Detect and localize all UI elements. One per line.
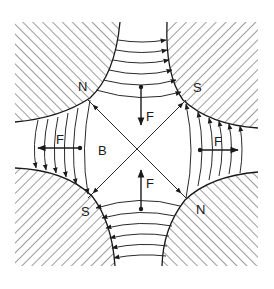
pole-top-right xyxy=(167,22,258,128)
force-bottom xyxy=(139,170,143,211)
force-label-top: F xyxy=(146,109,154,124)
pole-label-top-right: S xyxy=(193,80,202,95)
pole-label-bottom-left: S xyxy=(81,204,90,219)
force-label-left: F xyxy=(56,132,64,147)
force-label-bottom: F xyxy=(146,176,154,191)
pole-bottom-left xyxy=(15,168,115,266)
quadrupole-diagram: N S S N B F F F F xyxy=(0,0,274,289)
pole-label-bottom-right: N xyxy=(196,202,205,217)
force-top xyxy=(139,85,143,125)
pole-label-top-left: N xyxy=(78,79,87,94)
force-label-right: F xyxy=(214,134,222,149)
pole-bottom-right xyxy=(162,172,258,266)
field-label-b: B xyxy=(98,143,107,158)
pole-top-left xyxy=(15,22,120,122)
